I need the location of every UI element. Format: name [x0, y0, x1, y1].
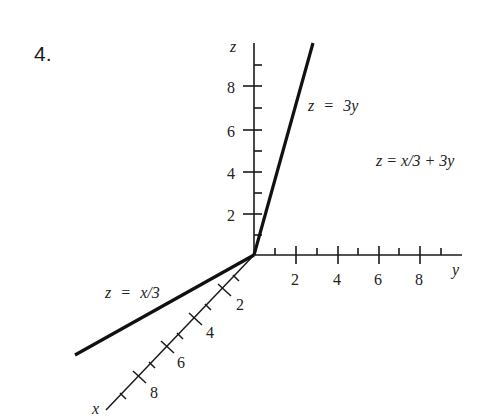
- x-tick-8: 8: [150, 384, 158, 401]
- z-tick-2: 2: [227, 207, 235, 224]
- y-tick-4: 4: [333, 271, 341, 288]
- x-axis: [106, 255, 254, 410]
- z-axis: [243, 43, 262, 255]
- x-tick-6: 6: [177, 354, 185, 371]
- y-axis-label: y: [450, 261, 460, 279]
- line-z-equals-x-over-3: [75, 255, 254, 355]
- y-tick-6: 6: [374, 271, 382, 288]
- line-z-equals-3y: [254, 43, 313, 255]
- label-z-equals-x-over-3: z = x/3: [104, 284, 160, 301]
- label-plane-equation: z = x/3 + 3y: [375, 152, 455, 170]
- axes-diagram: z 2 4 6 8 2 4 6 8 y: [0, 0, 493, 420]
- y-tick-8: 8: [415, 271, 423, 288]
- x-tick-2: 2: [236, 296, 244, 313]
- y-axis: [254, 246, 462, 264]
- z-axis-label: z: [229, 38, 237, 55]
- z-tick-8: 8: [227, 79, 235, 96]
- y-tick-2: 2: [291, 271, 299, 288]
- x-axis-label: x: [91, 400, 99, 417]
- label-z-equals-3y: z = 3y: [307, 97, 359, 115]
- diagram: 4. z 2 4 6 8: [0, 0, 493, 420]
- z-tick-4: 4: [227, 165, 235, 182]
- z-tick-6: 6: [227, 123, 235, 140]
- x-tick-4: 4: [206, 324, 214, 341]
